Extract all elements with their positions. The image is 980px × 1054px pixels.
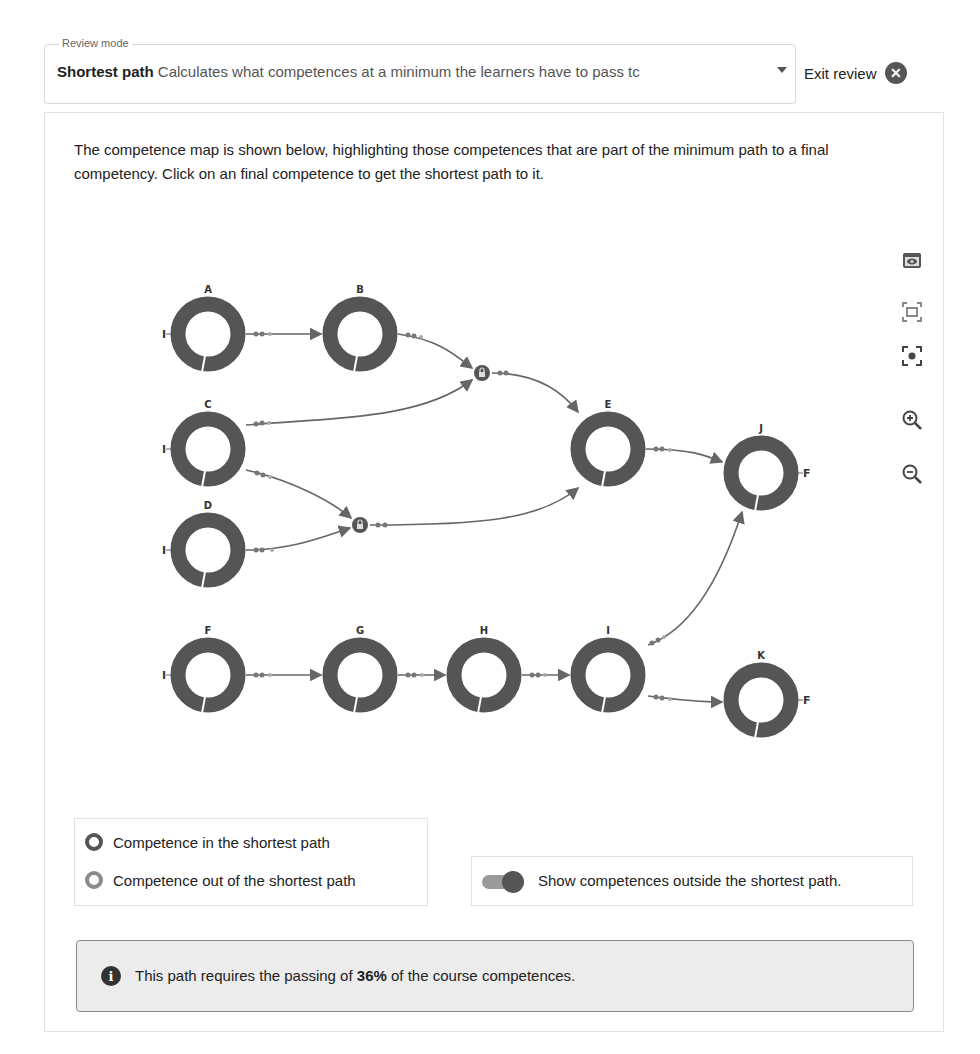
competence-node-c[interactable]: CI: [162, 399, 238, 487]
ring-dark-icon: [85, 833, 103, 851]
legend-out-path: Competence out of the shortest path: [85, 871, 356, 889]
edge-d-lock2: [246, 528, 350, 550]
toggle-thumb: [502, 871, 524, 893]
zoom-out-icon[interactable]: [898, 460, 926, 488]
svg-text:I: I: [162, 544, 166, 557]
competence-node-d[interactable]: DI: [162, 500, 238, 588]
svg-text:F: F: [205, 625, 212, 636]
svg-text:J: J: [758, 423, 763, 434]
show-outside-toggle-panel: Show competences outside the shortest pa…: [471, 856, 913, 906]
competence-node-j[interactable]: JF: [731, 423, 811, 511]
svg-text:K: K: [757, 650, 766, 661]
competence-node-e[interactable]: E: [578, 399, 638, 487]
competence-map[interactable]: AIBCIDIEJFFIGHIKF: [0, 0, 980, 800]
center-focus-icon[interactable]: [898, 342, 926, 370]
svg-text:F: F: [803, 467, 811, 480]
edge-i-k: [648, 696, 722, 702]
competence-node-k[interactable]: KF: [731, 650, 811, 738]
toggle-label: Show competences outside the shortest pa…: [538, 872, 842, 889]
edge-i-j: [648, 512, 742, 645]
info-percent: 36%: [357, 967, 387, 984]
competence-node-f[interactable]: FI: [162, 625, 238, 713]
svg-text:D: D: [204, 500, 212, 511]
fit-screen-icon[interactable]: [898, 298, 926, 326]
ring-light-icon: [85, 871, 103, 889]
info-prefix: This path requires the passing of: [135, 967, 357, 984]
competence-node-g[interactable]: G: [330, 625, 390, 713]
svg-text:I: I: [162, 328, 166, 341]
competence-node-h[interactable]: H: [454, 625, 514, 713]
edge-b-lock1: [398, 334, 472, 368]
competence-node-a[interactable]: AI: [162, 284, 238, 372]
svg-text:I: I: [162, 443, 166, 456]
edge-c-lock1: [246, 380, 472, 425]
legend-in-path-label: Competence in the shortest path: [113, 834, 330, 851]
legend-in-path: Competence in the shortest path: [85, 833, 330, 851]
edge-lock1-e: [492, 373, 578, 412]
svg-text:H: H: [480, 625, 488, 636]
legend-out-path-label: Competence out of the shortest path: [113, 872, 356, 889]
map-legend: Competence in the shortest path Competen…: [74, 818, 428, 906]
lock-icon: [352, 517, 368, 533]
zoom-in-icon[interactable]: [898, 406, 926, 434]
info-banner: i This path requires the passing of 36% …: [76, 940, 914, 1012]
svg-text:I: I: [606, 625, 610, 636]
competence-node-i[interactable]: I: [578, 625, 638, 713]
svg-text:A: A: [204, 284, 212, 295]
edge-lock2-e: [370, 488, 578, 525]
info-icon: i: [101, 966, 121, 986]
info-suffix: of the course competences.: [387, 967, 575, 984]
svg-text:C: C: [204, 399, 211, 410]
svg-text:B: B: [356, 284, 364, 295]
svg-text:I: I: [162, 669, 166, 682]
show-outside-toggle[interactable]: [480, 871, 524, 893]
info-text: This path requires the passing of 36% of…: [135, 967, 575, 984]
nodes: AIBCIDIEJFFIGHIKF: [162, 284, 811, 738]
svg-text:E: E: [605, 399, 612, 410]
junctions: [352, 365, 490, 533]
eye-icon[interactable]: [898, 246, 926, 274]
competence-node-b[interactable]: B: [330, 284, 390, 372]
svg-text:G: G: [356, 625, 364, 636]
lock-icon: [474, 365, 490, 381]
edge-c-lock2: [246, 470, 351, 518]
svg-text:F: F: [803, 694, 811, 707]
